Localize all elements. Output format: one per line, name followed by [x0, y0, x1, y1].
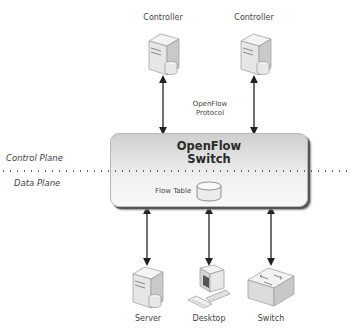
flow-table-label: Flow Table	[155, 187, 191, 195]
database-icon	[196, 181, 222, 203]
server-icon	[131, 264, 165, 310]
server-label: Server	[123, 314, 173, 323]
switch-label: Switch	[246, 314, 296, 323]
desktop-label: Desktop	[184, 314, 234, 323]
switch-title: OpenFlow Switch	[110, 140, 308, 166]
switch-title-line2: Switch	[110, 153, 308, 166]
protocol-label-line2: Protocol	[180, 109, 240, 118]
protocol-label-line1: OpenFlow	[180, 100, 240, 109]
protocol-label: OpenFlow Protocol	[180, 100, 240, 118]
desktop-icon	[186, 264, 232, 310]
plane-separator	[0, 170, 353, 172]
control-plane-label: Control Plane	[6, 153, 63, 163]
data-plane-label: Data Plane	[14, 178, 60, 188]
network-switch-icon	[246, 266, 296, 308]
